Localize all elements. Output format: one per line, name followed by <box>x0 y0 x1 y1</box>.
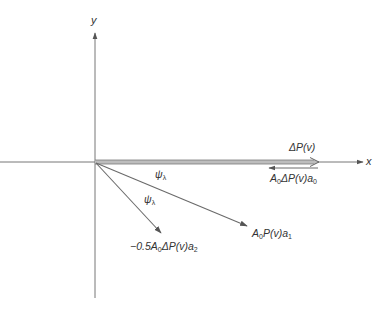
angle-label-upper: ψλ <box>155 168 166 181</box>
angle-label-lower: ψλ <box>144 193 155 206</box>
diagram-canvas <box>0 0 387 312</box>
vector-a0-p-a1 <box>96 163 247 226</box>
label-a0-p-a1: A0P(v)a1 <box>252 227 292 240</box>
x-axis-label: x <box>366 155 372 167</box>
label-a0-delta-p-a0: A0ΔP(v)a0 <box>270 172 317 185</box>
y-axis-label: y <box>91 14 97 26</box>
vector-delta-p <box>95 158 319 167</box>
label-delta-p: ΔP(v) <box>289 141 315 153</box>
label-neg-half-a0-delta-p-a2: −0.5A0ΔP(v)a2 <box>130 240 198 253</box>
